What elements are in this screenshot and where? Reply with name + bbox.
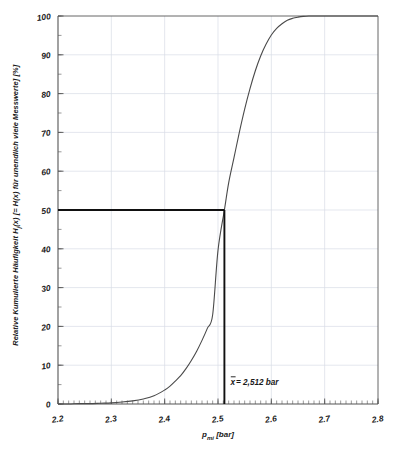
- y-tick-label: 40: [40, 244, 52, 255]
- x-tick-label: 2.6: [263, 413, 277, 425]
- y-tick-label: 0: [45, 399, 51, 410]
- mean-annotation-text: x: [229, 378, 235, 387]
- x-axis-tick-labels: 2.22.32.42.52.62.72.8: [50, 413, 384, 425]
- y-tick-label: 70: [41, 127, 52, 138]
- y-tick-label: 50: [41, 205, 52, 216]
- mean-annotation-value: = 2,512 bar: [236, 378, 279, 387]
- x-tick-label: 2.3: [103, 413, 117, 425]
- y-tick-label: 80: [41, 89, 52, 100]
- x-tick-label: 2.5: [210, 413, 224, 425]
- x-tick-label: 2.2: [50, 413, 64, 425]
- y-tick-label: 10: [41, 360, 52, 371]
- chart-figure: Relative Kumulierte Häufigkeit Hj(x) [= …: [0, 0, 400, 461]
- annotation-layer: x = 2,512 bar: [58, 210, 279, 404]
- y-tick-label: 20: [40, 321, 52, 332]
- y-tick-label: 30: [41, 283, 52, 294]
- x-tick-label: 2.8: [370, 413, 384, 425]
- mean-annotation-label: x = 2,512 bar: [229, 377, 279, 387]
- x-tick-label: 2.4: [157, 413, 171, 425]
- y-tick-label: 100: [36, 11, 52, 23]
- plot-area: 0102030405060708090100 2.22.32.42.52.62.…: [0, 0, 400, 461]
- y-tick-label: 60: [41, 166, 52, 177]
- x-tick-label: 2.7: [317, 413, 331, 425]
- y-tick-label: 90: [41, 50, 52, 61]
- y-axis-tick-labels: 0102030405060708090100: [36, 11, 52, 410]
